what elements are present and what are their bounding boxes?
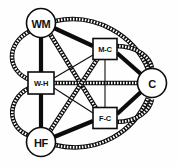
path-diagram-container: WMW-HHFM-CF-CC [0,0,179,166]
node-mc[interactable]: M-C [93,39,117,60]
node-label-fc: F-C [99,114,112,123]
edge-wh-hf [12,88,30,136]
node-label-c: C [148,78,156,90]
edge-fc-c [117,91,142,114]
node-label-wm: WM [32,18,51,30]
node-fc[interactable]: F-C [93,108,117,129]
edge-mc-c [117,53,142,75]
node-c[interactable]: C [138,69,167,98]
node-label-mc: M-C [98,45,112,54]
edge-wm-mc [54,28,93,46]
node-hf[interactable]: HF [27,128,56,157]
path-diagram-canvas: WMW-HHFM-CF-CC [0,0,179,166]
node-label-hf: HF [34,137,49,149]
node-wm[interactable]: WM [27,9,56,38]
node-label-wh: W-H [34,79,48,88]
edge-hf-fc [54,121,93,137]
node-wh[interactable]: W-H [28,72,54,94]
